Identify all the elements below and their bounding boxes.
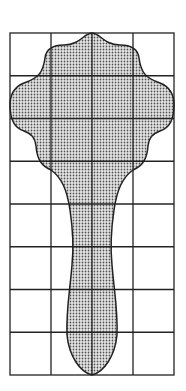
grid-shape-figure <box>0 0 186 391</box>
diagram-canvas <box>0 0 186 391</box>
